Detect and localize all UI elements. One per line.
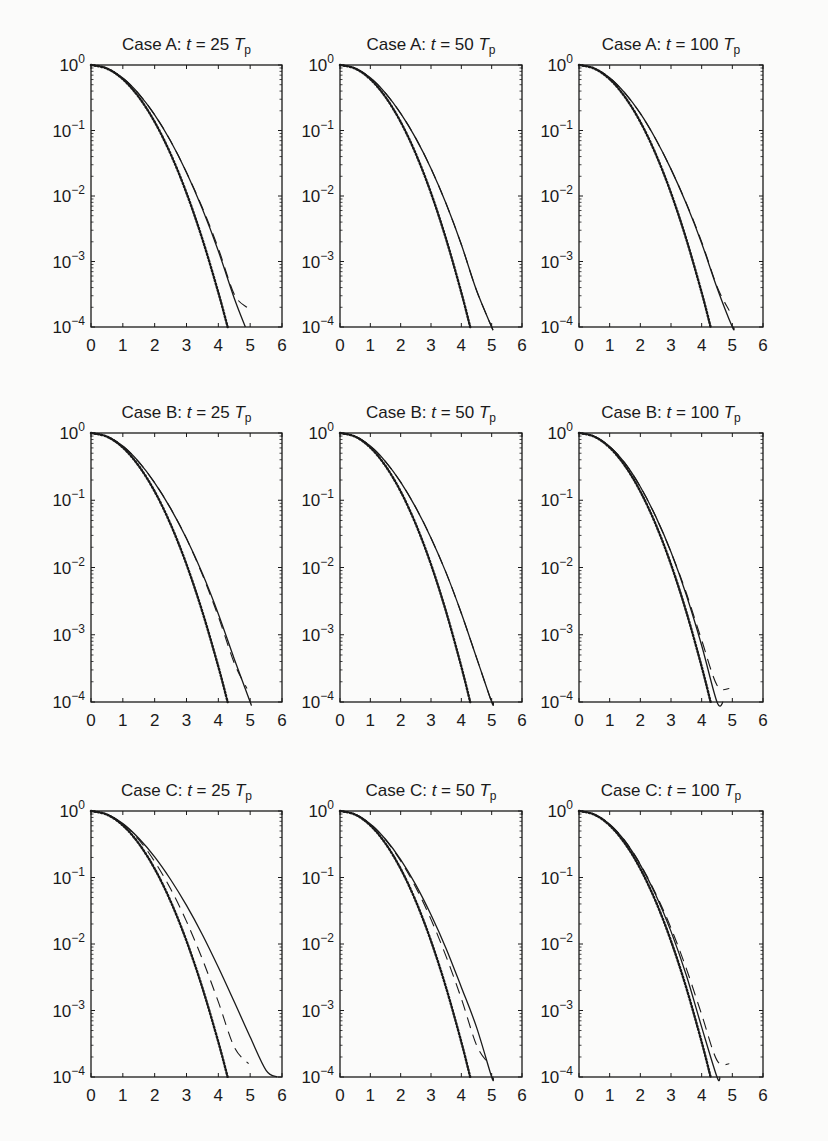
plot-panel-B100: 012345610010−110−210−310−4: [0, 0, 828, 1141]
plot-panel-C25: 012345610010−110−210−310−4: [0, 0, 828, 1141]
plot-panel-C100: 012345610010−110−210−310−4: [0, 0, 828, 1141]
curve-solid: [340, 433, 493, 705]
y-tick-label: 10−4: [52, 314, 85, 337]
y-tick-label: 10−3: [301, 622, 334, 645]
y-tick-label: 10−4: [540, 689, 573, 712]
y-tick-label: 10−4: [301, 1064, 334, 1087]
curve-reference: [340, 811, 470, 1077]
plot-frame: [340, 811, 522, 1077]
x-tick-label: 5: [245, 336, 254, 355]
plot-panel-C50: 012345610010−110−210−310−4: [0, 0, 828, 1141]
curve-solid: [91, 811, 277, 1077]
y-tick-label: 10−1: [52, 487, 85, 510]
curve-reference: [340, 433, 470, 702]
y-tick-label: 10−4: [301, 314, 334, 337]
curve-dashed: [91, 65, 247, 307]
y-tick-label: 10−4: [52, 1064, 85, 1087]
x-tick-label: 6: [277, 336, 286, 355]
curve-reference: [340, 65, 470, 327]
x-tick-label: 3: [666, 1086, 675, 1105]
x-tick-label: 1: [366, 711, 375, 730]
x-tick-label: 4: [214, 1086, 223, 1105]
x-tick-label: 1: [366, 336, 375, 355]
curve-dashed: [91, 433, 247, 689]
x-tick-label: 0: [335, 1086, 344, 1105]
x-tick-label: 3: [426, 711, 435, 730]
curve-dashed: [579, 433, 729, 690]
curve-reference: [91, 433, 228, 702]
plot-frame: [340, 65, 522, 327]
x-tick-label: 1: [605, 711, 614, 730]
x-tick-label: 4: [457, 336, 466, 355]
x-tick-label: 3: [426, 1086, 435, 1105]
curve-reference: [91, 65, 228, 327]
panel-title: Case C: t = 100 Tp: [561, 781, 781, 803]
y-tick-label: 10−2: [540, 183, 573, 206]
y-tick-label: 10−2: [301, 931, 334, 954]
x-tick-label: 6: [517, 336, 526, 355]
x-tick-label: 2: [150, 336, 159, 355]
x-tick-label: 6: [517, 711, 526, 730]
y-tick-label: 10−2: [52, 931, 85, 954]
x-tick-label: 0: [86, 1086, 95, 1105]
plot-frame: [91, 811, 282, 1077]
x-tick-label: 0: [335, 711, 344, 730]
y-tick-label: 10−3: [52, 998, 85, 1021]
y-tick-label: 10−3: [540, 622, 573, 645]
panel-title: Case B: t = 100 Tp: [561, 403, 781, 425]
panel-title: Case C: t = 50 Tp: [321, 781, 541, 803]
curve-reference: [579, 433, 711, 702]
curve-solid: [340, 811, 493, 1081]
plot-frame: [340, 433, 522, 702]
curve-reference: [340, 65, 470, 327]
curve-dashed: [579, 65, 729, 311]
y-tick-label: 10−3: [52, 622, 85, 645]
x-tick-label: 2: [636, 1086, 645, 1105]
y-tick-label: 10−3: [301, 998, 334, 1021]
x-tick-label: 0: [574, 711, 583, 730]
x-tick-label: 1: [366, 1086, 375, 1105]
curve-dashed: [340, 433, 493, 705]
y-tick-label: 10−4: [52, 689, 85, 712]
x-tick-label: 5: [728, 336, 737, 355]
panel-title: Case A: t = 50 Tp: [321, 35, 541, 57]
x-tick-label: 1: [605, 336, 614, 355]
curve-reference: [579, 811, 711, 1077]
plot-panel-B50: 012345610010−110−210−310−4: [0, 0, 828, 1141]
x-tick-label: 2: [150, 711, 159, 730]
curve-reference: [579, 811, 711, 1077]
x-tick-label: 2: [636, 711, 645, 730]
x-tick-label: 1: [118, 711, 127, 730]
y-tick-label: 10−1: [52, 865, 85, 888]
x-tick-label: 4: [697, 711, 706, 730]
x-tick-label: 1: [118, 336, 127, 355]
curve-dashed: [340, 811, 489, 1064]
y-tick-label: 10−2: [52, 183, 85, 206]
x-tick-label: 6: [277, 1086, 286, 1105]
curve-solid: [579, 433, 723, 706]
curve-reference: [91, 65, 228, 327]
x-tick-label: 0: [335, 336, 344, 355]
x-tick-label: 5: [728, 711, 737, 730]
x-tick-label: 6: [517, 1086, 526, 1105]
curve-dashed: [340, 65, 493, 330]
plot-frame: [579, 811, 763, 1077]
x-tick-label: 0: [574, 336, 583, 355]
y-tick-label: 10−2: [540, 931, 573, 954]
curve-reference: [91, 811, 228, 1077]
x-tick-label: 0: [86, 711, 95, 730]
curve-reference: [91, 811, 228, 1077]
x-tick-label: 1: [118, 1086, 127, 1105]
x-tick-label: 3: [666, 336, 675, 355]
x-tick-label: 3: [182, 1086, 191, 1105]
x-tick-label: 0: [574, 1086, 583, 1105]
x-tick-label: 3: [426, 336, 435, 355]
plot-panel-A50: 012345610010−110−210−310−4: [0, 0, 828, 1141]
x-tick-label: 5: [245, 1086, 254, 1105]
x-tick-label: 6: [758, 336, 767, 355]
plot-panel-A25: 012345610010−110−210−310−4: [0, 0, 828, 1141]
x-tick-label: 6: [758, 1086, 767, 1105]
x-tick-label: 4: [697, 1086, 706, 1105]
y-tick-label: 10−2: [540, 555, 573, 578]
curve-reference: [579, 433, 711, 702]
